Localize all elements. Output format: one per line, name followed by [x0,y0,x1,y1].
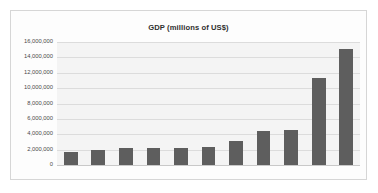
y-tick-label: 2,000,000 [27,147,53,153]
bar [312,78,326,165]
bar [174,148,188,165]
bar [229,141,243,165]
y-tick-label: 12,000,000 [24,70,53,76]
y-tick-label: 10,000,000 [24,85,53,91]
bar [257,131,271,165]
bar [119,148,133,165]
gridline [57,165,360,166]
bar [64,152,78,165]
y-tick-label: 8,000,000 [27,101,53,107]
y-tick-label: 14,000,000 [24,54,53,60]
y-axis-tick-labels: 02,000,0004,000,0006,000,0008,000,00010,… [11,42,55,165]
y-tick-label: 0 [50,162,53,168]
bar [284,130,298,165]
bar [91,150,105,165]
chart-title: GDP (millions of US$) [11,23,366,32]
bar [202,147,216,165]
y-tick-label: 4,000,000 [27,131,53,137]
chart-frame: GDP (millions of US$) 02,000,0004,000,00… [10,10,367,180]
plot-area [57,42,360,165]
bar-series [57,42,360,165]
bar [339,49,353,165]
bar [147,148,161,165]
y-tick-label: 16,000,000 [24,39,53,45]
y-tick-label: 6,000,000 [27,116,53,122]
